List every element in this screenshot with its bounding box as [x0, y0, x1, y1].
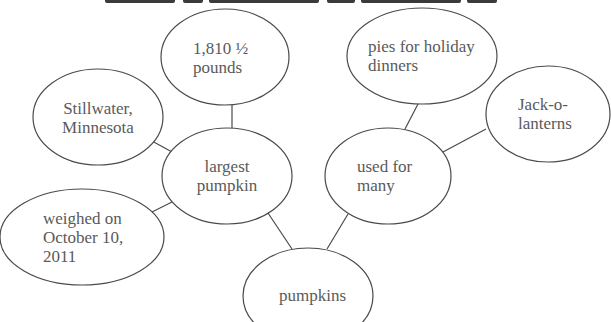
bubble-label-location: Stillwater, Minnesota: [48, 99, 148, 137]
bubble-label-largest: largest pumpkin: [177, 157, 277, 195]
bubble-label-used: used for many: [357, 157, 457, 195]
bubble-map-diagram: [0, 0, 611, 322]
bubble-label-pumpkins: pumpkins: [279, 286, 399, 305]
connector-largest-to-pumpkins: [268, 213, 292, 249]
connector-pies-to-used: [405, 104, 418, 129]
connector-location-to-largest: [152, 141, 172, 152]
bubble-pumpkins: [243, 248, 373, 322]
connector-jack-to-used: [443, 129, 486, 152]
bubble-label-date: weighed on October 10, 2011: [43, 209, 163, 266]
bubble-nodes: [0, 8, 610, 322]
connector-used-to-pumpkins: [327, 214, 348, 249]
bubble-label-weight: 1,810 ½ pounds: [193, 39, 293, 77]
bubble-label-jack: Jack-o- lanterns: [518, 95, 611, 133]
bubble-label-pies: pies for holiday dinners: [368, 37, 508, 75]
